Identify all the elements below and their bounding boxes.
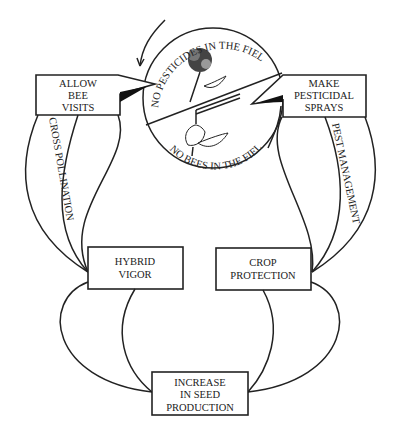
svg-text:CROP: CROP — [249, 257, 277, 268]
svg-text:PRODUCTION: PRODUCTION — [166, 402, 234, 413]
increase-seed-production-box: INCREASE IN SEED PRODUCTION — [152, 372, 248, 415]
svg-text:VIGOR: VIGOR — [118, 269, 151, 280]
svg-text:PROTECTION: PROTECTION — [230, 270, 296, 281]
make-pesticidal-sprays-box: MAKE PESTICIDAL SPRAYS — [252, 75, 366, 117]
svg-text:VISITS: VISITS — [62, 102, 95, 113]
svg-text:ALLOW: ALLOW — [59, 78, 97, 89]
svg-text:SPRAYS: SPRAYS — [305, 102, 344, 113]
svg-text:PESTICIDAL: PESTICIDAL — [294, 90, 354, 101]
svg-text:INCREASE: INCREASE — [174, 377, 225, 388]
hybrid-vigor-box: HYBRID VIGOR — [88, 247, 183, 289]
diagram-canvas: NO PESTICIDES IN THE FIELD NO BEES IN TH… — [0, 0, 398, 431]
crop-protection-box: CROP PROTECTION — [216, 248, 311, 290]
svg-text:BEE: BEE — [68, 90, 88, 101]
allow-bee-visits-box: ALLOW BEE VISITS — [36, 75, 155, 115]
svg-text:HYBRID: HYBRID — [115, 256, 156, 267]
svg-text:IN SEED: IN SEED — [180, 389, 220, 400]
svg-text:PEST MANAGEMENT: PEST MANAGEMENT — [330, 122, 362, 225]
sprayer-plant-icon — [186, 94, 240, 156]
svg-text:MAKE: MAKE — [309, 78, 340, 89]
